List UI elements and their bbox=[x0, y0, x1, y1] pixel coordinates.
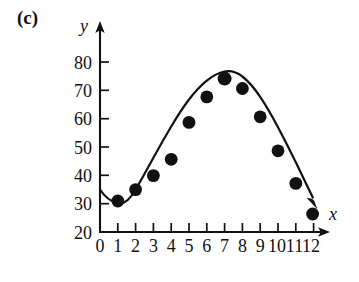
x-tick-label-3: 3 bbox=[149, 236, 158, 256]
data-point bbox=[236, 82, 249, 95]
data-point bbox=[306, 208, 319, 221]
data-point bbox=[289, 177, 302, 190]
x-tick-label-5: 5 bbox=[185, 236, 194, 256]
x-tick-label-4: 4 bbox=[167, 236, 176, 256]
y-tick-label-80: 80 bbox=[74, 53, 92, 73]
y-axis-tick-labels: 20 30 40 50 60 70 80 bbox=[74, 53, 92, 243]
y-axis-title: y bbox=[78, 16, 88, 36]
data-point bbox=[129, 183, 142, 196]
scatter-plot-with-fitted-curve: 20 30 40 50 60 70 80 0 1 2 3 4 5 6 7 8 9… bbox=[0, 0, 359, 282]
y-tick-label-50: 50 bbox=[74, 138, 92, 158]
y-tick-label-20: 20 bbox=[74, 223, 92, 243]
x-tick-label-7: 7 bbox=[220, 236, 229, 256]
data-point bbox=[200, 91, 213, 104]
y-tick-label-30: 30 bbox=[74, 194, 92, 214]
x-tick-label-8: 8 bbox=[238, 236, 247, 256]
x-tick-label-1: 1 bbox=[113, 236, 122, 256]
data-point bbox=[218, 72, 232, 86]
y-tick-label-60: 60 bbox=[74, 109, 92, 129]
data-point bbox=[183, 116, 196, 129]
y-axis-ticks bbox=[100, 62, 109, 232]
x-tick-label-10: 10 bbox=[268, 236, 286, 256]
x-tick-label-6: 6 bbox=[202, 236, 211, 256]
data-point bbox=[165, 153, 178, 166]
x-tick-label-0: 0 bbox=[96, 236, 105, 256]
x-tick-label-9: 9 bbox=[256, 236, 265, 256]
x-axis-ticks bbox=[100, 223, 314, 232]
data-point bbox=[254, 110, 267, 123]
x-axis-title: x bbox=[328, 204, 337, 224]
y-tick-label-40: 40 bbox=[74, 166, 92, 186]
y-tick-label-70: 70 bbox=[74, 81, 92, 101]
x-tick-label-11: 11 bbox=[286, 236, 303, 256]
figure-root: (c) bbox=[0, 0, 359, 282]
data-point bbox=[272, 144, 285, 157]
x-tick-label-2: 2 bbox=[131, 236, 140, 256]
data-point bbox=[111, 195, 124, 208]
x-tick-label-12: 12 bbox=[302, 236, 320, 256]
data-point bbox=[147, 169, 160, 182]
x-axis-tick-labels: 0 1 2 3 4 5 6 7 8 9 10 11 12 bbox=[96, 236, 321, 256]
